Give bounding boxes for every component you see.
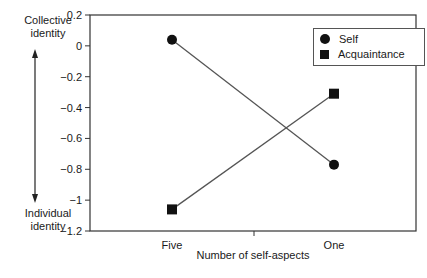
legend-label-acquaintance: Acquaintance bbox=[338, 48, 405, 60]
circle-marker-icon bbox=[320, 34, 330, 44]
svg-text:0: 0 bbox=[76, 40, 82, 52]
svg-text:0.2: 0.2 bbox=[67, 9, 82, 21]
x-axis-title: Number of self-aspects bbox=[90, 249, 416, 261]
square-marker-icon bbox=[320, 50, 329, 59]
y-axis-ticks: 0.20−0.2−0.4−0.6−0.8−1−1.2 bbox=[60, 9, 90, 237]
legend-item-acquaintance: Acquaintance bbox=[320, 48, 405, 60]
identity-arrow-icon bbox=[32, 49, 38, 203]
legend: Self Acquaintance bbox=[313, 28, 425, 66]
svg-text:−0.8: −0.8 bbox=[60, 163, 82, 175]
svg-text:−0.6: −0.6 bbox=[60, 132, 82, 144]
svg-text:−1: −1 bbox=[69, 194, 82, 206]
legend-label-self: Self bbox=[339, 33, 358, 45]
svg-text:−1.2: −1.2 bbox=[60, 225, 82, 237]
svg-text:−0.2: −0.2 bbox=[60, 71, 82, 83]
x-axis-ticks: FiveOne bbox=[162, 231, 345, 251]
legend-item-self: Self bbox=[320, 33, 358, 45]
svg-text:−0.4: −0.4 bbox=[60, 102, 82, 114]
